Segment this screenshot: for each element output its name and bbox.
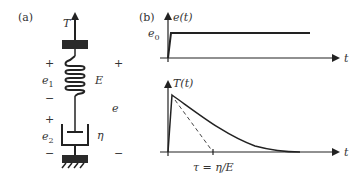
figure-graphics (0, 0, 362, 184)
spring-icon (66, 56, 85, 96)
stress-relaxation-curve (168, 95, 300, 152)
e2-label: e2 (42, 131, 54, 145)
maxwell-model-figure: (a) T E η + e1 − + e2 − + e − (b) e(t) e… (0, 0, 362, 184)
top-time-axis-label: t (344, 53, 348, 64)
stress-axis-label: T(t) (173, 78, 193, 89)
bottom-time-axis-label: t (344, 147, 348, 158)
e0-level-label: e0 (148, 28, 160, 42)
bottom-plot-axes (160, 82, 338, 156)
total-plus-sign: + (114, 58, 123, 69)
e1-subscript: 1 (49, 80, 54, 89)
tangent-dashed-line (175, 100, 213, 152)
time-constant-label: τ = η/E (193, 162, 234, 173)
panel-a-label: (a) (18, 12, 33, 23)
e2-minus-sign: − (45, 148, 54, 159)
ground-icon (62, 155, 88, 168)
top-plate (62, 40, 88, 49)
strain-axis-label: e(t) (173, 12, 193, 23)
e1-label: e1 (42, 75, 54, 89)
total-strain-label: e (112, 103, 119, 114)
panel-b-label: (b) (139, 12, 155, 23)
e1-minus-sign: − (45, 93, 54, 104)
strain-step-line (168, 33, 310, 58)
e1-plus-sign: + (45, 58, 54, 69)
e0-subscript: 0 (155, 33, 160, 42)
spring-label: E (95, 75, 103, 86)
dashpot-label: η (97, 130, 104, 141)
e2-subscript: 2 (49, 136, 54, 145)
total-minus-sign: − (114, 148, 123, 159)
e2-plus-sign: + (45, 114, 54, 125)
force-label: T (63, 18, 70, 29)
